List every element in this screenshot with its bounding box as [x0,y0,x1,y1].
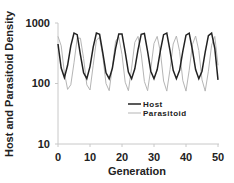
x-tick-10: 10 [84,151,96,163]
x-tick-50: 50 [212,151,224,163]
x-tick-30: 30 [148,151,160,163]
y-tick-1000: 1000 [26,17,50,29]
y-ticks: 1000 100 10 [26,17,50,150]
x-ticks: 0 10 20 30 40 50 [55,151,224,163]
x-tick-0: 0 [55,151,61,163]
chart: Host and Parasitoid Density 1000 100 10 … [0,0,234,183]
legend: Host Parasitoid [128,100,187,118]
x-axis-label: Generation [108,165,166,177]
legend-host-label: Host [143,100,163,109]
axes [55,23,219,147]
legend-parasitoid-label: Parasitoid [143,109,187,118]
x-tick-40: 40 [180,151,192,163]
y-axis-label: Host and Parasitoid Density [3,10,15,157]
y-tick-100: 100 [32,77,50,89]
x-tick-20: 20 [116,151,128,163]
y-tick-10: 10 [38,138,50,150]
